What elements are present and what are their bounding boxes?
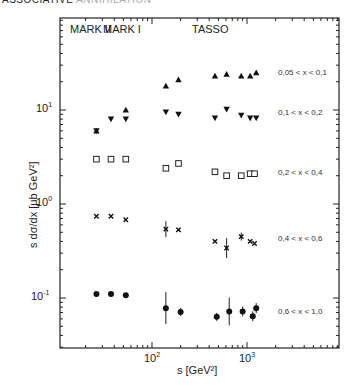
triangle-up-marker bbox=[212, 73, 218, 79]
triangle-down-marker bbox=[223, 107, 229, 113]
triangle-up-marker bbox=[175, 77, 181, 83]
y-axis-label: s dσ/dx [μb GeV²] bbox=[27, 162, 39, 249]
triangle-up-marker bbox=[253, 69, 259, 75]
cross-marker bbox=[109, 214, 113, 218]
x-tick-label: 102 bbox=[144, 351, 160, 364]
x-range-label: 0,1 < x < 0,2 bbox=[278, 108, 322, 117]
experiment-label: MARK I bbox=[103, 23, 141, 35]
triangle-up-marker bbox=[123, 107, 129, 113]
square-marker bbox=[212, 169, 218, 175]
cross-marker bbox=[124, 218, 128, 222]
triangle-down-marker bbox=[163, 110, 169, 116]
x-range-label: 0,2 < x < 0,4 bbox=[278, 168, 322, 177]
triangle-up-marker bbox=[238, 73, 244, 79]
circle-marker bbox=[240, 308, 246, 314]
circle-marker bbox=[253, 305, 259, 311]
circle-marker bbox=[123, 292, 129, 298]
cross-marker bbox=[176, 228, 180, 232]
triangle-up-marker bbox=[223, 71, 229, 77]
triangle-down-marker bbox=[108, 117, 114, 123]
square-marker bbox=[163, 165, 169, 171]
cross-marker bbox=[248, 239, 252, 243]
circle-marker bbox=[226, 308, 232, 314]
x-tick-label: 103 bbox=[239, 351, 255, 364]
triangle-down-marker bbox=[253, 116, 259, 122]
square-marker bbox=[238, 173, 244, 179]
square-marker bbox=[108, 156, 114, 162]
circle-marker bbox=[214, 314, 220, 320]
triangle-down-marker bbox=[247, 116, 253, 122]
circle-marker bbox=[108, 291, 114, 297]
cross-marker bbox=[94, 214, 98, 218]
x-range-label: 0,6 < x < 1,0 bbox=[278, 307, 322, 316]
cross-marker bbox=[213, 239, 217, 243]
circle-marker bbox=[93, 291, 99, 297]
circle-marker bbox=[178, 309, 184, 315]
cross-marker bbox=[252, 241, 256, 245]
circle-marker bbox=[250, 313, 256, 319]
square-marker bbox=[224, 173, 230, 179]
x-axis-label: s [GeV²] bbox=[177, 364, 217, 376]
circle-marker bbox=[163, 305, 169, 311]
square-marker bbox=[176, 161, 182, 167]
y-tick-label: 10-1 bbox=[31, 289, 49, 302]
triangle-up-marker bbox=[163, 83, 169, 89]
triangle-down-marker bbox=[123, 117, 129, 123]
square-marker bbox=[252, 171, 258, 177]
chart-plot-area bbox=[0, 0, 355, 386]
y-tick-label: 101 bbox=[36, 101, 52, 114]
x-range-label: 0,4 < x < 0,6 bbox=[278, 234, 322, 243]
triangle-down-marker bbox=[238, 113, 244, 119]
square-marker bbox=[94, 156, 100, 162]
triangle-down-marker bbox=[212, 116, 218, 122]
experiment-label: TASSO bbox=[192, 23, 228, 35]
square-marker bbox=[123, 156, 129, 162]
x-range-label: 0,05 < x < 0,1 bbox=[278, 68, 327, 77]
triangle-up-marker bbox=[247, 73, 253, 79]
triangle-down-marker bbox=[175, 112, 181, 118]
